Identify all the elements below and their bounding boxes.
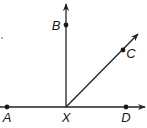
label-D: D	[121, 110, 130, 125]
label-A: A	[2, 110, 12, 125]
geometry-diagram: A B C D X	[0, 0, 147, 128]
ray-XC	[66, 34, 138, 107]
artifact-dot	[1, 37, 3, 39]
label-X: X	[61, 110, 72, 125]
point-A	[5, 105, 10, 110]
label-B: B	[52, 18, 61, 33]
point-C	[121, 48, 126, 53]
point-B	[64, 23, 69, 28]
point-D	[124, 105, 129, 110]
label-C: C	[126, 46, 136, 61]
